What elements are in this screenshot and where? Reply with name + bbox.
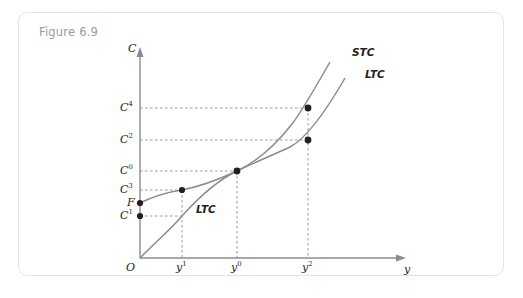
horizontal-guide-lines bbox=[140, 108, 308, 216]
point-c1 bbox=[137, 213, 143, 219]
marked-points bbox=[137, 105, 312, 219]
y-tick-f: F bbox=[127, 197, 135, 208]
y-axis-label: C bbox=[128, 43, 136, 54]
y-tick-c2: C2 bbox=[120, 134, 133, 145]
point-tangency-y0-c0 bbox=[234, 168, 241, 175]
y-tick-c1: C1 bbox=[120, 210, 133, 221]
y-tick-c0: C0 bbox=[120, 165, 133, 176]
x-axis-arrow bbox=[396, 254, 406, 261]
y-tick-c3: C3 bbox=[120, 184, 133, 195]
figure-screenshot: Figure 6.9 bbox=[0, 0, 523, 298]
stc-curve bbox=[140, 62, 330, 203]
x-axis-label: y bbox=[404, 264, 410, 275]
point-y2-c2 bbox=[305, 137, 312, 144]
point-y1-c3 bbox=[179, 187, 185, 193]
ltc-curve-label-inner: LTC bbox=[196, 204, 216, 215]
x-tick-y1: y1 bbox=[176, 262, 187, 273]
y-tick-c4: C4 bbox=[120, 102, 133, 113]
vertical-guide-lines bbox=[182, 108, 308, 258]
x-tick-y0: y0 bbox=[231, 262, 242, 273]
y-axis bbox=[136, 47, 143, 258]
point-f bbox=[137, 200, 143, 206]
stc-curve-label: STC bbox=[352, 47, 374, 58]
origin-label: O bbox=[126, 262, 135, 273]
x-tick-y2: y2 bbox=[302, 262, 313, 273]
cost-curves-chart bbox=[0, 0, 523, 298]
point-y2-c4 bbox=[305, 105, 312, 112]
ltc-curve-label-outer: LTC bbox=[365, 69, 385, 80]
y-axis-arrow bbox=[136, 47, 143, 57]
